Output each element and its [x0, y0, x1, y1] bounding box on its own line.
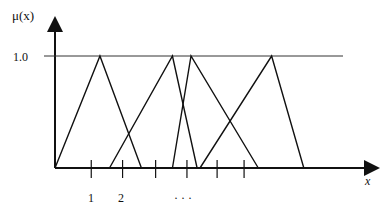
membership-functions [55, 56, 304, 168]
y-axis-label: μ(x) [12, 8, 34, 23]
membership-triangle-a1 [55, 56, 141, 168]
membership-diagram: μ(x) 1.0 x 1 2 · · · [0, 0, 384, 212]
tick-label-2: 2 [118, 191, 124, 205]
ellipsis-label: · · · [174, 191, 192, 205]
x-axis-label: x [364, 174, 371, 188]
y-level-label: 1.0 [13, 50, 28, 64]
tick-label-1: 1 [88, 191, 94, 205]
membership-triangle-a4 [200, 56, 304, 168]
membership-triangle-a2 [110, 56, 198, 168]
